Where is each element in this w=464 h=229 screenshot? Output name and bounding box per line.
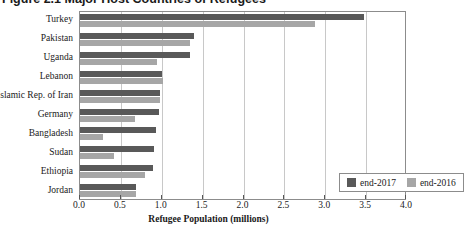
bar-end-2017 <box>80 33 194 39</box>
bar-end-2016 <box>80 97 160 103</box>
legend-label: end-2016 <box>420 178 456 188</box>
bar-group <box>80 90 405 107</box>
bar-end-2017 <box>80 184 136 190</box>
x-tick-label: 2.5 <box>277 200 289 210</box>
y-axis-category-labels: TurkeyPakistanUgandaLebanonIslamic Rep. … <box>0 11 76 200</box>
x-tick-mark <box>324 195 325 199</box>
bar-end-2017 <box>80 14 364 20</box>
chart-legend: end-2017 end-2016 <box>339 173 464 192</box>
y-axis-label-uganda: Uganda <box>43 52 73 62</box>
x-tick-mark <box>120 195 121 199</box>
bar-end-2017 <box>80 165 153 171</box>
y-axis-label-sudan: Sudan <box>49 147 73 157</box>
y-axis-label-lebanon: Lebanon <box>40 71 73 81</box>
bar-end-2016 <box>80 191 136 197</box>
x-axis-tick-labels: 0.00.51.01.52.02.53.03.54.0 <box>79 200 406 212</box>
bar-end-2016 <box>80 59 157 65</box>
legend-swatch-icon <box>347 178 356 187</box>
x-tick-label: 1.5 <box>196 200 208 210</box>
bar-end-2017 <box>80 146 154 152</box>
bar-group <box>80 14 405 31</box>
bar-group <box>80 146 405 163</box>
x-axis-title: Refugee Population (millions) <box>0 214 417 224</box>
bar-end-2016 <box>80 153 114 159</box>
x-tick-label: 3.0 <box>318 200 330 210</box>
bar-end-2016 <box>80 116 135 122</box>
bar-end-2016 <box>80 78 163 84</box>
x-tick-mark <box>243 195 244 199</box>
bar-end-2017 <box>80 109 159 115</box>
x-tick-mark <box>365 195 366 199</box>
legend-label: end-2017 <box>360 178 396 188</box>
legend-item-end-2016: end-2016 <box>407 178 456 188</box>
bar-end-2017 <box>80 90 160 96</box>
x-tick-mark <box>161 195 162 199</box>
legend-swatch-icon <box>407 178 416 187</box>
bar-end-2016 <box>80 21 315 27</box>
x-tick-mark <box>405 195 406 199</box>
bar-end-2016 <box>80 40 190 46</box>
x-tick-label: 4.0 <box>400 200 412 210</box>
y-axis-label-bangladesh: Bangladesh <box>29 128 73 138</box>
bar-rows <box>80 12 405 199</box>
x-tick-label: 2.0 <box>237 200 249 210</box>
y-axis-label-jordan: Jordan <box>48 185 73 195</box>
page-title: Figure 2.1 Major Host Countries of Refug… <box>0 0 417 7</box>
x-tick-mark <box>79 195 80 199</box>
x-tick-label: 3.5 <box>359 200 371 210</box>
bar-end-2017 <box>80 127 156 133</box>
x-tick-label: 0.0 <box>73 200 85 210</box>
bar-group <box>80 127 405 144</box>
bar-end-2016 <box>80 134 103 140</box>
y-axis-label-germany: Germany <box>38 109 73 119</box>
plot-area: end-2017 end-2016 <box>79 11 406 200</box>
bar-end-2016 <box>80 172 145 178</box>
y-axis-label-ethiopia: Ethiopia <box>41 166 73 176</box>
bar-end-2017 <box>80 71 162 77</box>
x-tick-mark <box>283 195 284 199</box>
figure-title-strip: Figure 2.1 Major Host Countries of Refug… <box>0 0 417 7</box>
x-tick-mark <box>202 195 203 199</box>
y-axis-label-pakistan: Pakistan <box>41 33 73 43</box>
y-axis-label-islamic-rep-of-iran: Islamic Rep. of Iran <box>0 90 73 100</box>
bar-end-2017 <box>80 52 190 58</box>
bar-group <box>80 71 405 88</box>
bar-group <box>80 52 405 69</box>
bar-group <box>80 33 405 50</box>
legend-item-end-2017: end-2017 <box>347 178 396 188</box>
x-tick-label: 0.5 <box>114 200 126 210</box>
y-axis-label-turkey: Turkey <box>46 14 73 24</box>
bar-group <box>80 109 405 126</box>
x-tick-label: 1.0 <box>155 200 167 210</box>
